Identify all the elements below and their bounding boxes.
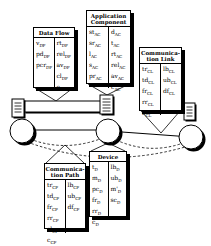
- attribute-subscript: AC: [115, 31, 121, 36]
- attribute-entry: rtAC: [111, 50, 130, 61]
- attribute-subscript: CP: [50, 239, 56, 244]
- network-attributes-figure: Data FlowvDFpdDFpcrDFrtDFrelDFavDFclDFcD…: [0, 0, 211, 246]
- attribute-subscript: CL: [148, 101, 154, 106]
- attribute-subscript: CP: [74, 206, 80, 211]
- attribute-column-right: rtDFrelDFavDFclDFcDF: [55, 38, 75, 87]
- application-component-box: ApplicationComponentstACsrAClACsACprACdA…: [86, 10, 131, 84]
- attribute-subscript: DF: [65, 53, 71, 58]
- attribute-subscript: DF: [46, 64, 52, 69]
- attribute-subscript: D: [118, 177, 121, 182]
- attribute-subscript: AC: [92, 64, 98, 69]
- attribute-entry: frCP: [47, 203, 65, 214]
- attribute-subscript: DF: [62, 75, 68, 80]
- attribute-subscript: D: [116, 166, 119, 171]
- attribute-subscript: AC: [116, 53, 122, 58]
- box-title: Device: [90, 152, 126, 162]
- attribute-subscript: D: [98, 210, 101, 215]
- attribute-subscript: D: [95, 221, 98, 226]
- box-body: vDFpdDFpcrDFrtDFrelDFavDFclDFcDF: [34, 38, 74, 87]
- attribute-column-right: lbDubDm'DscD: [109, 162, 127, 216]
- attribute-symbol: ub: [163, 76, 171, 83]
- box-title-line: Device: [90, 154, 126, 160]
- attribute-entry: rtDF: [57, 39, 75, 50]
- box-body: tDmDpcDfrDrrDcDlbDubDm'DscD: [90, 162, 126, 216]
- attribute-subscript: D: [94, 166, 97, 171]
- attribute-symbol: pd: [36, 50, 44, 57]
- attribute-entry: tD: [92, 163, 108, 174]
- attribute-subscript: AC: [91, 53, 97, 58]
- attribute-entry: prAC: [89, 72, 108, 83]
- attribute-subscript: AC: [119, 64, 125, 69]
- attribute-entry: dfCL: [163, 87, 181, 98]
- attribute-entry: vDF: [36, 39, 54, 50]
- attribute-subscript: DF: [60, 86, 66, 91]
- host-icon: [184, 103, 197, 122]
- attribute-subscript: DF: [39, 42, 45, 47]
- attribute-entry: lbCL: [163, 65, 181, 76]
- attribute-entry: srAC: [89, 39, 108, 50]
- box-title-line: Data Flow: [34, 30, 74, 36]
- attribute-entry: rrD: [92, 207, 108, 218]
- attribute-entry: rrCL: [142, 98, 160, 109]
- attribute-column-left: trCPtdCPfrCPrrCPclCPcCP: [45, 180, 66, 233]
- network-node-icon: [10, 119, 37, 146]
- attribute-subscript: CP: [52, 206, 58, 211]
- dashed-path: [30, 139, 100, 146]
- network-node-icon: [96, 119, 123, 146]
- attribute-subscript: CP: [52, 184, 58, 189]
- attribute-column-right: dACtACrtACrelACavACcAC: [109, 27, 130, 88]
- attribute-entry: mD: [92, 174, 108, 185]
- communication-link-box: Communica-tion LinktrCLtdCLfrCLrrCLcCLlb…: [139, 47, 182, 111]
- attribute-entry: cCL: [142, 109, 160, 120]
- attribute-entry: cDF: [57, 83, 75, 94]
- attribute-entry: ubCP: [68, 192, 86, 203]
- attribute-column-right: lbCLubCLdfCL: [161, 64, 181, 115]
- attribute-column-left: vDFpdDFpcrDF: [34, 38, 55, 87]
- attribute-subscript: CP: [52, 228, 58, 233]
- box-title: ApplicationComponent: [87, 11, 130, 27]
- box-body: stACsrAClACsACprACdACtACrtACrelACavACcAC: [87, 27, 130, 88]
- host-icon: [12, 99, 26, 119]
- attribute-entry: lbCP: [68, 181, 86, 192]
- attribute-symbol: pcr: [36, 61, 46, 68]
- attribute-subscript: D: [118, 188, 121, 193]
- box-title-line: Communica-: [140, 50, 181, 56]
- attribute-entry: frD: [92, 196, 108, 207]
- attribute-subscript: AC: [95, 31, 101, 36]
- attribute-subscript: AC: [95, 42, 101, 47]
- attribute-subscript: D: [98, 177, 101, 182]
- attribute-column-left: tDmDpcDfrDrrDcD: [90, 162, 109, 216]
- box-title-line: Application: [87, 13, 130, 19]
- attribute-subscript: CL: [147, 68, 153, 73]
- attribute-subscript: CL: [169, 90, 175, 95]
- attribute-subscript: CL: [145, 112, 151, 117]
- attribute-symbol: m': [111, 185, 118, 192]
- attribute-entry: lbD: [111, 163, 127, 174]
- box-title: Communica-tion Link: [140, 48, 181, 64]
- communication-link-bar: [24, 101, 103, 114]
- data-flow-box: Data FlowvDFpdDFpcrDFrtDFrelDFavDFclDFcD…: [33, 27, 75, 88]
- attribute-entry: clCP: [47, 225, 65, 236]
- attribute-subscript: AC: [113, 42, 119, 47]
- attribute-symbol: rel: [57, 50, 65, 57]
- attribute-entry: cAC: [111, 83, 130, 94]
- attribute-subscript: CL: [147, 90, 153, 95]
- attribute-subscript: CP: [75, 195, 81, 200]
- attribute-entry: lAC: [89, 50, 108, 61]
- attribute-entry: pcD: [92, 185, 108, 196]
- attribute-column-left: stACsrAClACsACprAC: [87, 27, 109, 88]
- attribute-subscript: CL: [148, 79, 154, 84]
- host-icon: [100, 95, 115, 116]
- attribute-entry: m'D: [111, 185, 127, 196]
- attribute-subscript: CP: [53, 217, 59, 222]
- attribute-entry: pcrDF: [36, 61, 54, 72]
- box-body: trCPtdCPfrCPrrCPclCPcCPlbCPubCPdfCP: [45, 180, 85, 233]
- attribute-subscript: CP: [73, 184, 79, 189]
- box-title: Communica-tion Path: [45, 164, 85, 180]
- attribute-subscript: AC: [118, 75, 124, 80]
- box-title-line: tion Path: [45, 172, 85, 178]
- attribute-subscript: DF: [44, 53, 50, 58]
- attribute-symbol: pr: [89, 72, 96, 79]
- attribute-entry: avAC: [111, 72, 130, 83]
- attribute-subscript: D: [117, 199, 120, 204]
